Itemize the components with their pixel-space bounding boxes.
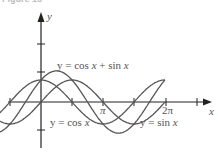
- two-pi-tick-label: 2π: [162, 104, 173, 116]
- sum-curve-label: y = cos x + sin x: [57, 59, 129, 71]
- y-axis-arrow-icon: [38, 12, 45, 22]
- plot-area: [0, 0, 218, 154]
- x-axis-label: x: [209, 105, 214, 117]
- sin-curve-label: y = sin x: [140, 116, 178, 128]
- cos-curve-label: y = cos x: [50, 116, 90, 128]
- y-axis-label: y: [47, 10, 52, 22]
- pi-tick-label: π: [100, 104, 106, 116]
